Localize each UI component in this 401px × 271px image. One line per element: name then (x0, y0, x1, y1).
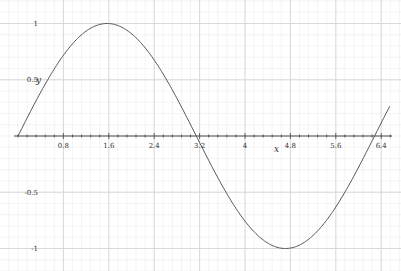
y-tick-label: -0.5 (25, 189, 39, 197)
x-axis-label: x (274, 144, 279, 154)
x-tick-label: 5.6 (330, 142, 342, 150)
x-tick-label: 4 (243, 142, 248, 150)
x-tick-label: 1.6 (103, 142, 115, 150)
x-tick-label: 2.4 (149, 142, 161, 150)
y-axis-label: y (35, 75, 42, 85)
x-tick-label: 4.8 (285, 142, 296, 150)
x-tick-label: 0.8 (58, 142, 69, 150)
x-axis-tick-labels: 0.81.62.43.244.85.66.4 (58, 142, 387, 150)
y-tick-label: 1 (34, 20, 38, 28)
sine-plot: 0.81.62.43.244.85.66.4 10.5-0.5-1 x y (0, 0, 401, 271)
x-tick-label: 6.4 (376, 142, 388, 150)
y-tick-label: -1 (31, 245, 38, 253)
